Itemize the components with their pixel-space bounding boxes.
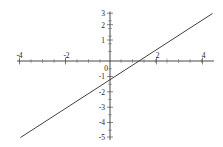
data-series-line — [21, 14, 213, 138]
y-tick-label-neg5: -5 — [99, 133, 105, 142]
x-tick-label-zero: 0 — [104, 64, 108, 73]
plot-canvas: -4 -2 0 2 4 3 2 1 -1 -2 -3 -4 -5 — [0, 0, 223, 147]
y-tick-label-neg2: -2 — [99, 88, 105, 97]
y-tick-label-neg1: -1 — [99, 72, 105, 81]
y-tick-label-neg4: -4 — [99, 118, 105, 127]
y-tick-label-1: 1 — [101, 36, 105, 45]
x-tick-label-pos4: 4 — [202, 51, 206, 60]
y-tick-label-2: 2 — [101, 21, 105, 30]
y-tick-label-neg3: -3 — [99, 103, 105, 112]
x-tick-label-pos2: 2 — [156, 51, 160, 60]
x-tick-label-neg4: -4 — [16, 51, 22, 60]
x-tick-label-neg2: -2 — [63, 51, 69, 60]
y-tick-label-3: 3 — [101, 9, 105, 18]
line-graph-plot: -4 -2 0 2 4 3 2 1 -1 -2 -3 -4 -5 — [0, 0, 223, 147]
